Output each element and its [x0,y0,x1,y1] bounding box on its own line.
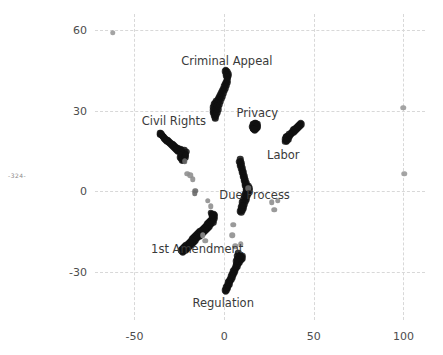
data-point-outlier [230,222,236,228]
axis-side-note: -324- [8,172,26,179]
y-axis-tick-label: 0 [41,185,87,198]
cluster-label-labor: Labor [267,148,300,162]
data-point [209,212,216,219]
cluster-label-1st-amendment: 1st Amendment [151,242,243,256]
x-axis-tick-label: 0 [221,330,228,343]
cluster-label-privacy: Privacy [236,106,278,120]
data-point [237,156,244,163]
data-point-outlier [208,203,214,209]
x-axis-tick-label: -50 [125,330,143,343]
y-axis-tick-label: 30 [41,104,87,117]
scatter-plot-figure: -324- -3003060-50050100 Criminal AppealC… [0,0,443,355]
cluster-label-civil-rights: Civil Rights [142,114,206,128]
data-point [286,130,293,137]
data-point-outlier [229,233,235,239]
cluster-label-regulation: Regulation [193,296,254,310]
data-point [233,258,240,265]
data-point [284,138,291,145]
data-point [225,77,232,84]
data-point [239,202,246,209]
data-point-outlier [272,207,278,213]
data-point-outlier [182,158,188,164]
data-point [157,130,164,137]
data-point-outlier [190,177,196,183]
cluster-label-due-process: Due Process [219,188,290,202]
data-point [250,126,257,133]
y-axis-tick-label: -30 [41,265,87,278]
data-point-outlier [401,105,407,111]
data-point-outlier [110,30,116,36]
cluster-label-criminal-appeal: Criminal Appeal [181,54,272,68]
y-axis-tick-label: 60 [41,24,87,37]
data-point-outlier [192,191,198,197]
data-point-outlier [402,171,408,177]
x-axis-tick-label: 100 [393,330,414,343]
x-axis-tick-label: 50 [307,330,321,343]
